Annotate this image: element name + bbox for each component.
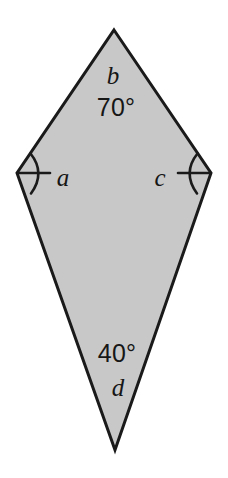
kite-angle-diagram: b 70° a c 40° d (0, 0, 228, 478)
angle-label-b: b (107, 63, 120, 88)
angle-label-c: c (154, 165, 165, 190)
angle-value-70-degrees: 70° (97, 95, 135, 120)
angle-label-d: d (112, 375, 125, 400)
angle-value-40-degrees: 40° (98, 341, 136, 366)
angle-label-a: a (57, 165, 70, 190)
